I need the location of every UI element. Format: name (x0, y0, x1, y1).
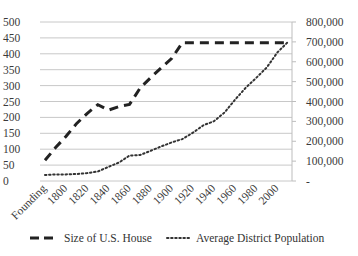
dotted-line-icon (166, 233, 190, 243)
left-tick-label: 150 (3, 127, 21, 139)
left-tick-label: 300 (3, 80, 21, 92)
left-tick-label: 400 (3, 48, 21, 60)
x-tick-label: 1820 (66, 182, 91, 207)
x-tick-label: 1800 (45, 182, 70, 207)
right-tick-label: 200,000 (306, 135, 344, 148)
x-tick-label: 1880 (129, 182, 154, 207)
right-tick-label: 500,000 (306, 76, 344, 89)
right-tick-label: 100,000 (306, 155, 344, 168)
left-tick-label: 350 (3, 64, 21, 76)
x-tick-label: 1860 (108, 182, 133, 207)
legend-item-district-population: Average District Population (166, 232, 324, 244)
legend-item-house-size: Size of U.S. House (30, 232, 152, 244)
left-y-axis: 050100150200250300350400450500 (3, 16, 21, 187)
x-tick-label: 1980 (235, 182, 260, 207)
legend-label: Size of U.S. House (64, 232, 152, 244)
x-tick-label: Founding (9, 182, 50, 223)
right-tick-label: 600,000 (306, 56, 344, 69)
x-tick-label: 1940 (193, 182, 218, 207)
right-tick-label: 400,000 (306, 96, 344, 109)
x-tick-label: 1960 (214, 182, 239, 207)
left-tick-label: 100 (3, 143, 21, 155)
right-tick-label: - (306, 175, 310, 187)
x-axis: Founding18001820184018601880190019201940… (9, 182, 281, 223)
right-tick-label: 700,000 (306, 36, 344, 49)
gridlines (40, 22, 292, 181)
right-tick-label: 300,000 (306, 115, 344, 128)
line-chart: 050100150200250300350400450500 -100,0002… (0, 0, 358, 256)
x-tick-label: 1920 (172, 182, 197, 207)
right-y-axis: -100,000200,000300,000400,000500,000600,… (292, 16, 344, 187)
left-tick-label: 200 (3, 111, 21, 123)
right-tick-label: 800,000 (306, 16, 344, 29)
dashed-line-icon (30, 233, 58, 243)
left-tick-label: 450 (3, 32, 21, 44)
left-tick-label: 500 (3, 16, 21, 28)
left-tick-label: 0 (3, 175, 9, 187)
series-lines (45, 42, 288, 175)
legend-label: Average District Population (196, 232, 324, 244)
x-tick-label: 1840 (87, 182, 112, 207)
x-tick-label: 2000 (256, 182, 281, 207)
legend: Size of U.S. House Average District Popu… (0, 230, 358, 250)
left-tick-label: 250 (3, 96, 21, 108)
left-tick-label: 50 (3, 159, 15, 171)
x-tick-label: 1900 (150, 182, 175, 207)
